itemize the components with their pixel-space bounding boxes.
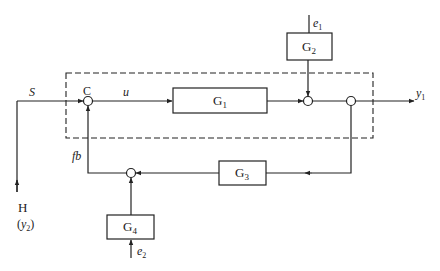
summing-junction-2 <box>304 97 313 106</box>
y2-label: (y2) <box>17 217 34 233</box>
e2-label: e2 <box>137 244 146 260</box>
block-diagram: G1 G2 G3 G4 S C u e1 y1 fb e2 H (y2) <box>0 0 440 271</box>
u-label: u <box>123 85 129 99</box>
summing-junction-4 <box>127 169 136 178</box>
fb-line <box>88 106 127 173</box>
e1-label: e1 <box>313 16 322 32</box>
feedback-line <box>312 106 351 174</box>
h-label: H <box>18 200 27 215</box>
s-label: S <box>29 85 35 99</box>
y1-label: y1 <box>415 86 425 102</box>
fb-label: fb <box>72 149 81 163</box>
c-label: C <box>83 84 91 98</box>
pickoff-junction-3 <box>347 97 356 106</box>
